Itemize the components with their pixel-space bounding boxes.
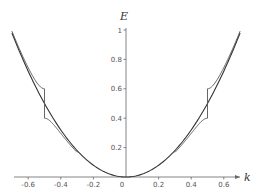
band-left xyxy=(12,31,77,152)
x-tick-label: -0.2 xyxy=(87,181,101,189)
x-axis-label: k xyxy=(244,171,251,184)
x-tick-label: 0.6 xyxy=(218,181,230,189)
y-tick-label: 1 xyxy=(118,27,122,35)
band-right xyxy=(175,31,240,152)
x-tick-label: 0 xyxy=(120,181,124,189)
y-tick-label: 0.6 xyxy=(111,85,123,93)
band-structure-chart: k E -0.6-0.4-0.200.20.40.6 0.20.40.60.81 xyxy=(0,0,261,196)
y-tick-label: 0.2 xyxy=(111,144,122,152)
x-axis-arrow xyxy=(235,175,240,179)
x-tick-label: -0.6 xyxy=(21,181,35,189)
y-axis-label: E xyxy=(119,10,128,23)
axes: k E xyxy=(14,10,251,184)
x-tick-label: -0.4 xyxy=(54,181,68,189)
x-ticks: -0.6-0.4-0.200.20.40.6 xyxy=(21,177,230,189)
y-tick-label: 0.8 xyxy=(111,56,122,64)
y-ticks: 0.20.40.60.81 xyxy=(111,27,126,153)
y-tick-label: 0.4 xyxy=(111,115,123,123)
x-tick-label: 0.2 xyxy=(153,181,164,189)
x-tick-label: 0.4 xyxy=(186,181,198,189)
